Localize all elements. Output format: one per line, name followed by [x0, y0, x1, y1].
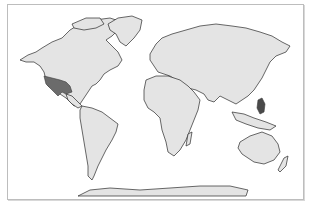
australia: [238, 132, 280, 164]
antarctica: [78, 186, 248, 196]
north-america: [20, 18, 122, 106]
southeast-asia-islands: [232, 112, 276, 130]
south-america: [80, 106, 118, 180]
new-zealand: [278, 156, 288, 172]
highlight-philippines: [257, 98, 265, 114]
world-map: [0, 0, 310, 205]
